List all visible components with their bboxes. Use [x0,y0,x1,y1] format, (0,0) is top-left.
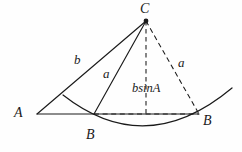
segment-C-B2 [146,21,199,114]
geometry-figure: A C B B b a a bsinA [0,0,242,152]
vertex-marker-C [144,19,149,24]
geometry-diagram-svg [0,0,242,152]
vertex-label-C: C [140,2,149,16]
segment-A-C [37,21,146,114]
side-label-a-right: a [178,56,185,69]
vertex-label-B-left: B [86,128,95,142]
side-label-b: b [74,53,81,66]
altitude-label-b-sin-a: bsinA [132,82,160,95]
segment-B1-C [94,21,146,114]
side-label-a-left: a [103,67,110,80]
vertex-label-A: A [14,106,23,120]
vertex-label-B-right: B [203,114,212,128]
